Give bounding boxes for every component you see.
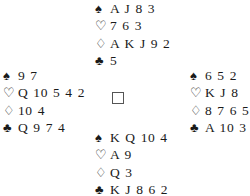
south-diamonds: ♢Q 3 — [95, 164, 168, 181]
south-clubs: ♣K J 8 6 2 — [95, 181, 168, 196]
east-spades: ♠6 5 2 — [190, 67, 249, 84]
club-icon: ♣ — [95, 52, 110, 69]
east-hand: ♠6 5 2 ♡K J 8 ♢8 7 6 5 ♣A 10 3 — [190, 67, 249, 137]
north-diamonds: ♢A K J 9 2 — [95, 35, 170, 52]
north-clubs: ♣5 — [95, 52, 170, 69]
heart-icon: ♡ — [95, 17, 110, 34]
west-hand: ♠9 7 ♡Q 10 5 4 2 ♢10 4 ♣Q 9 7 4 — [3, 67, 85, 137]
east-hearts: ♡K J 8 — [190, 84, 249, 101]
west-diamonds: ♢10 4 — [3, 102, 85, 119]
spade-icon: ♠ — [3, 67, 18, 84]
south-spades: ♠K Q 10 4 — [95, 129, 168, 146]
east-clubs: ♣A 10 3 — [190, 119, 249, 136]
club-icon: ♣ — [95, 181, 110, 196]
west-hearts: ♡Q 10 5 4 2 — [3, 84, 85, 101]
heart-icon: ♡ — [3, 84, 18, 101]
spade-icon: ♠ — [190, 67, 205, 84]
south-hand: ♠K Q 10 4 ♡A 9 ♢Q 3 ♣K J 8 6 2 — [95, 129, 168, 196]
diamond-icon: ♢ — [95, 35, 110, 52]
heart-icon: ♡ — [95, 146, 110, 163]
spade-icon: ♠ — [95, 0, 110, 17]
club-icon: ♣ — [3, 119, 18, 136]
club-icon: ♣ — [190, 119, 205, 136]
spade-icon: ♠ — [95, 129, 110, 146]
heart-icon: ♡ — [190, 84, 205, 101]
north-hearts: ♡7 6 3 — [95, 17, 170, 34]
table-center-square — [112, 92, 124, 104]
north-hand: ♠A J 8 3 ♡7 6 3 ♢A K J 9 2 ♣5 — [95, 0, 170, 70]
west-clubs: ♣Q 9 7 4 — [3, 119, 85, 136]
diamond-icon: ♢ — [95, 164, 110, 181]
east-diamonds: ♢8 7 6 5 — [190, 102, 249, 119]
north-spades: ♠A J 8 3 — [95, 0, 170, 17]
south-hearts: ♡A 9 — [95, 146, 168, 163]
diamond-icon: ♢ — [190, 102, 205, 119]
west-spades: ♠9 7 — [3, 67, 85, 84]
diamond-icon: ♢ — [3, 102, 18, 119]
